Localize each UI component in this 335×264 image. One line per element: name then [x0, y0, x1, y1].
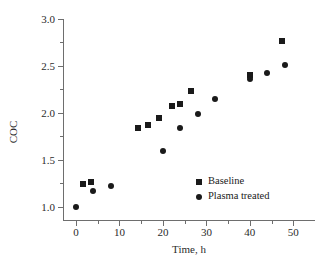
y-tick-label: 2.0	[41, 107, 55, 118]
y-axis-line	[63, 19, 64, 221]
data-point-circle	[177, 125, 183, 131]
data-point-circle	[160, 148, 166, 154]
data-point-square	[88, 179, 94, 185]
data-point-circle	[264, 70, 270, 76]
data-point-circle	[195, 111, 201, 117]
x-tick-minor	[228, 221, 229, 224]
x-tick-label: 20	[157, 227, 168, 238]
data-point-square	[177, 101, 183, 107]
legend-item: Baseline	[196, 174, 270, 189]
data-point-circle	[247, 76, 253, 82]
data-point-square	[279, 38, 285, 44]
data-point-circle	[212, 96, 218, 102]
x-tick-minor	[98, 221, 99, 224]
y-tick-major	[58, 207, 63, 208]
plot-area: 1.01.52.02.53.0 01020304050	[63, 19, 315, 221]
data-point-square	[169, 103, 175, 109]
chart-legend: BaselinePlasma treated	[196, 174, 270, 204]
y-tick-label: 3.0	[41, 14, 55, 25]
chart-page: COC 1.01.52.02.53.0 01020304050 Time, h …	[0, 0, 335, 264]
data-point-square	[145, 122, 151, 128]
data-point-square	[135, 125, 141, 131]
y-axis-title: COC	[7, 121, 19, 144]
x-tick-minor	[141, 221, 142, 224]
data-point-circle	[90, 188, 96, 194]
y-tick-label: 2.5	[41, 60, 55, 71]
y-tick-major	[58, 113, 63, 114]
x-tick-label: 0	[73, 227, 79, 238]
x-tick-label: 50	[288, 227, 299, 238]
legend-item: Plasma treated	[196, 189, 270, 204]
x-tick-label: 40	[244, 227, 255, 238]
legend-item-label: Plasma treated	[208, 191, 270, 202]
x-tick-label: 10	[114, 227, 125, 238]
data-point-square	[80, 181, 86, 187]
y-tick-minor	[60, 183, 63, 184]
data-point-circle	[73, 204, 79, 210]
x-axis-title: Time, h	[63, 243, 315, 255]
y-tick-minor	[60, 136, 63, 137]
y-tick-major	[58, 19, 63, 20]
x-tick-minor	[272, 221, 273, 224]
y-tick-label: 1.0	[41, 201, 55, 212]
data-point-circle	[282, 62, 288, 68]
data-point-square	[156, 115, 162, 121]
y-tick-minor	[60, 42, 63, 43]
square-marker-icon	[196, 179, 202, 185]
y-tick-major	[58, 66, 63, 67]
legend-item-label: Baseline	[208, 176, 244, 187]
data-point-circle	[108, 183, 114, 189]
y-tick-label: 1.5	[41, 154, 55, 165]
x-tick-label: 30	[201, 227, 212, 238]
y-tick-major	[58, 160, 63, 161]
circle-marker-icon	[196, 194, 202, 200]
x-tick-minor	[185, 221, 186, 224]
x-axis-line	[63, 220, 315, 221]
y-tick-minor	[60, 89, 63, 90]
data-point-square	[188, 88, 194, 94]
